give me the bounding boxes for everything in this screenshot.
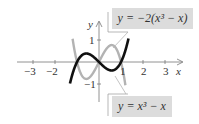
y-axis-label: y xyxy=(88,19,93,30)
y-tick-label-1: 1 xyxy=(89,35,95,46)
x-axis-label: x xyxy=(176,66,181,77)
x-tick-label-1: 1 xyxy=(120,66,126,77)
x-tick-label-neg2: −2 xyxy=(46,66,58,77)
x-tick-label-neg3: −3 xyxy=(24,66,36,77)
bottom-equation: y = x³ − x xyxy=(118,99,166,114)
y-tick-label-neg1: −1 xyxy=(84,79,96,90)
top-equation-box: y = −2(x³ − x) xyxy=(112,8,193,29)
x-tick-label-3: 3 xyxy=(163,66,169,77)
top-equation: y = −2(x³ − x) xyxy=(118,11,188,26)
x-tick-label-2: 2 xyxy=(141,66,147,77)
bottom-equation-box: y = x³ − x xyxy=(112,96,172,117)
